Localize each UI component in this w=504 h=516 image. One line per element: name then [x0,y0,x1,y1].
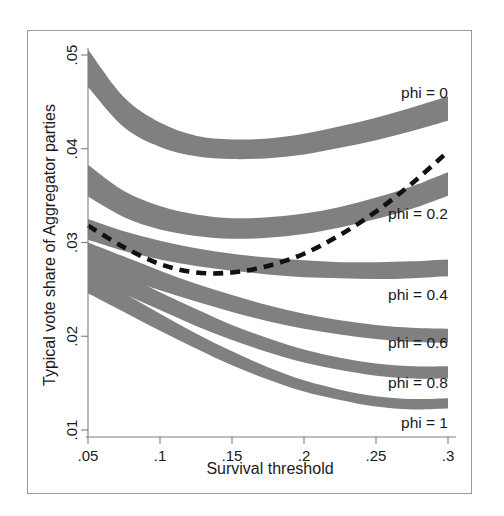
band-phi-0 [88,49,448,159]
confidence-bands-group [88,49,448,409]
x-axis-ticks [88,437,448,444]
y-tick-label: .02 [63,326,80,347]
series-label-phi-1: phi = 1 [401,414,448,431]
series-label-phi-06: phi = 0.6 [388,334,448,351]
x-tick-label: .05 [78,447,99,464]
x-tick-label: .1 [154,447,167,464]
series-label-phi-02: phi = 0.2 [388,205,448,222]
band-phi-02 [88,165,448,239]
series-label-phi-0: phi = 0 [401,84,448,101]
y-tick-label: .05 [63,45,80,66]
chart-plot-area: .01 .02 .03 .04 .05 .05 .1 .15 .2 .25 .3… [0,0,504,516]
series-annotations-group: phi = 0 phi = 0.2 phi = 0.4 phi = 0.6 ph… [388,84,448,431]
x-tick-label: .3 [442,447,455,464]
y-tick-label: .01 [63,420,80,441]
y-tick-label: .04 [63,138,80,159]
y-tick-label: .03 [63,232,80,253]
y-axis-title: Typical vote share of Aggregator parties [41,104,58,386]
x-axis-title: Survival threshold [206,460,333,477]
series-label-phi-08: phi = 0.8 [388,374,448,391]
figure-canvas: .01 .02 .03 .04 .05 .05 .1 .15 .2 .25 .3… [0,0,504,516]
series-label-phi-04: phi = 0.4 [388,286,448,303]
y-axis-ticks [81,55,88,430]
y-axis-tick-labels: .01 .02 .03 .04 .05 [63,45,80,441]
x-tick-label: .25 [366,447,387,464]
